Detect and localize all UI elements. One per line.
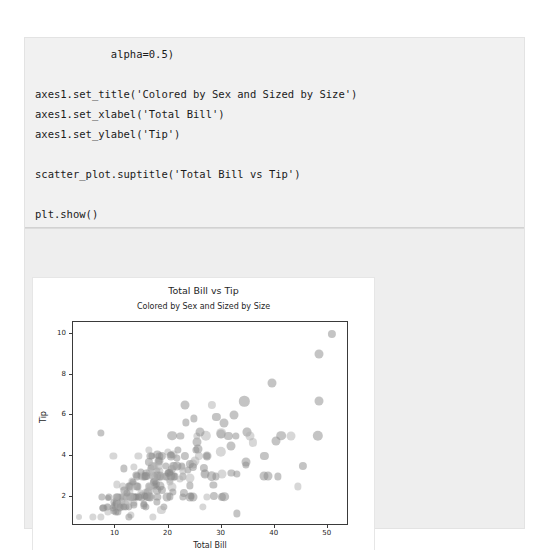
scatter-point — [232, 432, 239, 439]
scatter-point — [203, 493, 210, 500]
scatter-point — [218, 470, 227, 479]
scatter-point — [130, 463, 137, 470]
matplotlib-figure: Total Bill vs Tip Colored by Sex and Siz… — [33, 278, 374, 550]
scatter-point — [207, 471, 217, 481]
scatter-point — [157, 505, 165, 513]
scatter-point — [215, 447, 225, 457]
y-tick-mark — [69, 496, 72, 497]
scatter-point — [97, 513, 104, 520]
y-tick-mark — [69, 374, 72, 375]
scatter-point — [105, 495, 111, 501]
scatter-point — [242, 458, 251, 467]
scatter-point — [190, 415, 197, 422]
x-tick-mark — [274, 525, 275, 528]
x-tick-label: 40 — [269, 529, 278, 537]
scatter-point — [176, 475, 183, 482]
scatter-point — [328, 330, 336, 338]
x-tick-mark — [168, 525, 169, 528]
scatter-point — [299, 462, 307, 470]
code-line: alpha=0.5) — [25, 44, 524, 64]
scatter-point — [158, 452, 166, 460]
scatter-point — [233, 470, 240, 477]
scatter-point — [169, 488, 176, 495]
scatter-point — [186, 482, 193, 489]
x-tick-label: 30 — [216, 529, 225, 537]
y-tick-label: 4 — [62, 451, 66, 459]
x-tick-label: 50 — [322, 529, 331, 537]
scatter-point — [210, 482, 217, 489]
x-tick-mark — [114, 525, 115, 528]
scatter-point — [226, 441, 235, 450]
code-line: axes1.set_xlabel('Total Bill') — [25, 104, 524, 124]
scatter-point — [183, 419, 190, 426]
scatter-point — [314, 350, 323, 359]
scatter-point — [185, 492, 194, 501]
x-axis-label: Total Bill — [72, 541, 348, 550]
y-tick-label: 6 — [62, 410, 66, 418]
y-tick-mark — [69, 333, 72, 334]
x-tick-mark — [221, 525, 222, 528]
scatter-point — [243, 428, 252, 437]
y-tick-mark — [69, 414, 72, 415]
x-tick-mark — [327, 525, 328, 528]
scatter-point — [130, 501, 137, 508]
code-line-blank — [25, 64, 524, 84]
scatter-point — [110, 452, 117, 459]
notebook-cell[interactable]: alpha=0.5) axes1.set_title('Colored by S… — [25, 38, 524, 528]
scatter-point — [210, 491, 218, 499]
figure-suptitle: Total Bill vs Tip — [33, 285, 374, 296]
scatter-point — [167, 431, 177, 441]
code-line: scatter_plot.suptitle('Total Bill vs Tip… — [25, 164, 524, 184]
scatter-point — [166, 472, 175, 481]
code-line: plt.show() — [25, 204, 524, 224]
code-line: axes1.set_title('Colored by Sex and Size… — [25, 84, 524, 104]
scatter-point — [274, 473, 281, 480]
scatter-point — [263, 472, 272, 481]
scatter-point — [188, 462, 196, 470]
scatter-point — [76, 514, 82, 520]
code-input-area[interactable]: alpha=0.5) axes1.set_title('Colored by S… — [25, 38, 524, 227]
scatter-point — [208, 401, 216, 409]
scatter-point — [195, 428, 204, 437]
code-line-blank — [25, 184, 524, 204]
scatter-point — [181, 401, 190, 410]
scatter-point — [294, 483, 301, 490]
scatter-point — [239, 396, 249, 406]
notebook-page: alpha=0.5) axes1.set_title('Colored by S… — [0, 0, 549, 550]
scatter-plot-axes — [72, 321, 348, 525]
y-tick-mark — [69, 455, 72, 456]
scatter-point — [135, 452, 142, 459]
y-tick-label: 2 — [62, 492, 66, 500]
scatter-point — [230, 411, 239, 420]
scatter-point — [248, 438, 256, 446]
y-tick-label: 8 — [62, 370, 66, 378]
scatter-point — [126, 513, 133, 520]
scatter-point — [186, 473, 195, 482]
scatter-point — [89, 513, 96, 520]
scatter-point — [313, 430, 323, 440]
scatter-point — [314, 396, 323, 405]
scatter-point — [181, 452, 189, 460]
scatter-point — [199, 503, 206, 510]
cell-output-area: Total Bill vs Tip Colored by Sex and Siz… — [25, 229, 524, 528]
scatter-point — [287, 431, 296, 440]
code-line-blank — [25, 144, 524, 164]
scatter-point — [276, 431, 286, 441]
y-tick-label: 10 — [57, 329, 66, 337]
scatter-point — [167, 451, 176, 460]
scatter-point — [216, 428, 226, 438]
x-tick-label: 10 — [110, 529, 119, 537]
scatter-point — [120, 465, 127, 472]
scatter-point — [233, 510, 240, 517]
scatter-point — [219, 419, 228, 428]
scatter-point — [260, 452, 268, 460]
x-tick-label: 20 — [163, 529, 172, 537]
y-axis-label: Tip — [39, 411, 48, 423]
code-line: axes1.set_ylabel('Tip') — [25, 124, 524, 144]
scatter-point — [177, 432, 184, 439]
scatter-point — [267, 379, 276, 388]
scatter-point — [149, 513, 156, 520]
axes-title: Colored by Sex and Sized by Size — [33, 302, 374, 311]
scatter-point — [97, 429, 104, 436]
scatter-point — [142, 503, 149, 510]
